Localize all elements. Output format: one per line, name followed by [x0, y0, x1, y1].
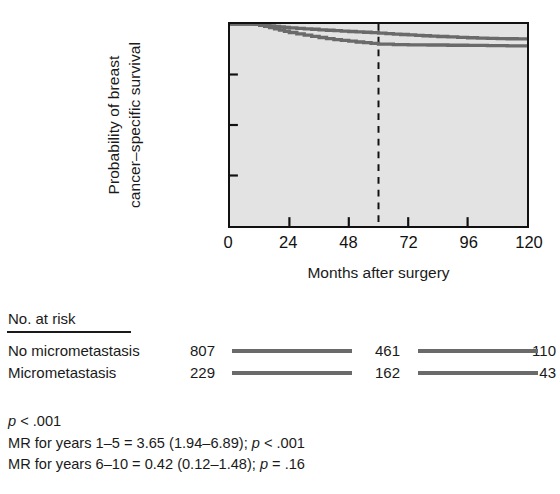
risk-row-label: No micrometastasis	[8, 340, 140, 361]
risk-connector-line	[232, 371, 352, 375]
risk-row-label: Micrometastasis	[8, 362, 116, 383]
stat-line-years-1-5: MR for years 1–5 = 3.65 (1.94–6.89); p <…	[8, 433, 305, 455]
risk-count: 229	[155, 362, 215, 383]
p-symbol-2: p	[252, 435, 260, 451]
stat-2-post: < .001	[260, 435, 305, 451]
stat-2-pre: MR for years 1–5 = 3.65 (1.94–6.89);	[8, 435, 252, 451]
stat-line-years-6-10: MR for years 6–10 = 0.42 (0.12–1.48); p …	[8, 454, 305, 476]
stat-1-rest: < .001	[16, 413, 61, 429]
x-tick-label-2: 48	[339, 230, 357, 254]
x-tick-label-1: 24	[279, 230, 297, 254]
risk-connector-line	[418, 371, 538, 375]
risk-connector-line	[232, 349, 352, 353]
x-tick-label-5: 120	[515, 230, 543, 254]
x-tick-label-0: 0	[223, 230, 232, 254]
stat-line-overall-p: p < .001	[8, 411, 305, 433]
stat-3-post: = .16	[268, 456, 305, 472]
p-symbol-3: p	[260, 456, 268, 472]
risk-table-header: No. at risk	[8, 310, 76, 327]
y-axis-tick-labels: 10.750.500.250	[0, 0, 228, 250]
risk-connector-line	[418, 349, 538, 353]
x-tick-label-3: 72	[399, 230, 417, 254]
x-axis-tick-labels: 024487296120	[0, 230, 560, 260]
risk-table-rule	[7, 331, 131, 333]
survival-curves	[230, 24, 527, 226]
plot-area	[228, 22, 529, 228]
risk-count: 807	[155, 340, 215, 361]
kaplan-meier-figure: Probability of breast cancer–specific su…	[0, 0, 560, 494]
p-symbol-1: p	[8, 413, 16, 429]
x-axis-title: Months after surgery	[228, 264, 529, 282]
statistics-block: p < .001 MR for years 1–5 = 3.65 (1.94–6…	[8, 411, 305, 476]
stat-3-pre: MR for years 6–10 = 0.42 (0.12–1.48);	[8, 456, 260, 472]
x-tick-label-4: 96	[460, 230, 478, 254]
